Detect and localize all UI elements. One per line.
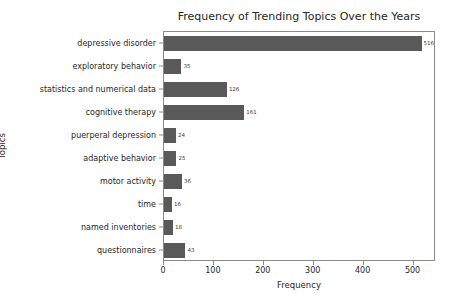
x-axis-tick-mark xyxy=(213,261,214,265)
x-axis-tick-mark xyxy=(263,261,264,265)
bar[interactable] xyxy=(164,82,227,96)
y-axis-tick-label: adaptive behavior xyxy=(83,153,156,162)
bar-row: 35 xyxy=(164,59,434,73)
x-axis-tick-mark xyxy=(363,261,364,265)
x-axis-tick-mark xyxy=(313,261,314,265)
bar-value-label: 35 xyxy=(183,64,190,70)
bar[interactable] xyxy=(164,128,176,142)
bar-value-label: 18 xyxy=(175,225,182,231)
bar-value-label: 161 xyxy=(246,110,257,116)
y-axis-tick-label: puerperal depression xyxy=(71,130,156,139)
x-axis-tick-label: 300 xyxy=(305,266,320,275)
y-axis-tick-mark xyxy=(159,134,163,135)
bar[interactable] xyxy=(164,243,185,257)
y-axis-tick-mark xyxy=(159,226,163,227)
bar[interactable] xyxy=(164,197,172,211)
bar-row: 18 xyxy=(164,220,434,234)
y-axis-tick-mark xyxy=(159,111,163,112)
bar-value-label: 36 xyxy=(184,179,191,185)
x-axis-tick-label: 0 xyxy=(160,266,165,275)
y-axis-tick-mark xyxy=(159,42,163,43)
bar-value-label: 126 xyxy=(229,87,240,93)
x-axis-tick-label: 200 xyxy=(255,266,270,275)
bar[interactable] xyxy=(164,105,244,119)
x-axis-tick-label: 100 xyxy=(205,266,220,275)
y-axis-tick-mark xyxy=(159,249,163,250)
bar-value-label: 25 xyxy=(178,156,185,162)
bar[interactable] xyxy=(164,151,176,165)
y-axis-tick-label: motor activity xyxy=(100,176,156,185)
y-axis-tick-mark xyxy=(159,157,163,158)
bar-row: 16 xyxy=(164,197,434,211)
bar[interactable] xyxy=(164,59,181,73)
y-axis-tick-label: exploratory behavior xyxy=(72,61,156,70)
bar-value-label: 516 xyxy=(424,41,435,47)
plot-area: 51635126161242536161843 xyxy=(163,31,435,261)
bar[interactable] xyxy=(164,36,422,50)
bar-value-label: 24 xyxy=(178,133,185,139)
y-axis-label: Topics xyxy=(0,133,7,159)
x-axis-tick-label: 400 xyxy=(355,266,370,275)
y-axis-tick-label: statistics and numerical data xyxy=(40,84,156,93)
y-axis-tick-label: cognitive therapy xyxy=(86,107,156,116)
x-axis-tick-mark xyxy=(163,261,164,265)
bar-value-label: 43 xyxy=(187,248,194,254)
x-axis-tick-mark xyxy=(413,261,414,265)
chart-title: Frequency of Trending Topics Over the Ye… xyxy=(163,10,435,23)
bar-row: 516 xyxy=(164,36,434,50)
bar-row: 161 xyxy=(164,105,434,119)
x-axis-tick-label: 500 xyxy=(405,266,420,275)
bar-row: 36 xyxy=(164,174,434,188)
y-axis-tick-mark xyxy=(159,88,163,89)
y-axis-tick-mark xyxy=(159,65,163,66)
chart-figure: Frequency of Trending Topics Over the Ye… xyxy=(0,0,450,306)
bar[interactable] xyxy=(164,174,182,188)
bar-row: 24 xyxy=(164,128,434,142)
bar-row: 25 xyxy=(164,151,434,165)
bar[interactable] xyxy=(164,220,173,234)
y-axis-tick-label: time xyxy=(138,199,156,208)
x-axis-label: Frequency xyxy=(163,280,435,290)
bar-row: 126 xyxy=(164,82,434,96)
y-axis-tick-label: named inventories xyxy=(81,222,156,231)
y-axis-tick-label: depressive disorder xyxy=(77,38,156,47)
bars-layer: 51635126161242536161843 xyxy=(164,32,434,260)
bar-value-label: 16 xyxy=(174,202,181,208)
y-axis-tick-mark xyxy=(159,203,163,204)
y-axis-tick-label: questionnaires xyxy=(97,245,156,254)
y-axis-tick-mark xyxy=(159,180,163,181)
bar-row: 43 xyxy=(164,243,434,257)
